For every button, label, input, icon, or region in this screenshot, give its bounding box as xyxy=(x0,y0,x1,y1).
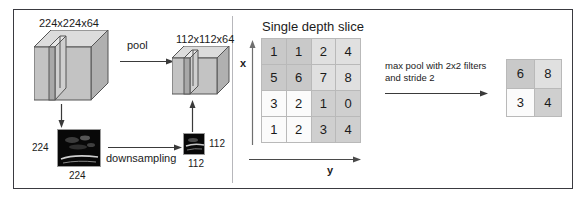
input-matrix-cell-2-1: 2 xyxy=(287,91,311,116)
input-matrix-cell-0-3: 4 xyxy=(336,39,360,64)
input-matrix-cell-0-1: 1 xyxy=(287,39,311,64)
input-image-bottom-label: 224 xyxy=(69,170,86,182)
output-matrix-cell-1-1: 4 xyxy=(535,89,562,117)
downsampling-arrow xyxy=(108,143,182,152)
input-volume-cube xyxy=(34,30,109,102)
output-image-side-label: 112 xyxy=(209,138,225,150)
input-matrix-cell-0-2: 2 xyxy=(312,39,336,64)
input-matrix-cell-2-2: 1 xyxy=(312,91,336,116)
axis-x-arrow xyxy=(248,40,257,145)
pool-arrow xyxy=(120,57,174,66)
single-depth-slice-title: Single depth slice xyxy=(262,20,364,35)
output-volume-label: 112x112x64 xyxy=(176,33,234,46)
input-matrix-cell-2-3: 0 xyxy=(336,91,360,116)
maxpool-operation-label-line1: max pool with 2x2 filters xyxy=(385,61,486,72)
upsample-up-arrow xyxy=(188,100,197,132)
output-matrix-cell-0-1: 8 xyxy=(535,60,562,88)
input-matrix: 1124567832101234 xyxy=(261,38,361,143)
input-matrix-cell-1-0: 5 xyxy=(262,65,286,90)
output-volume-cube xyxy=(172,46,230,96)
figure-root: 224x224x64 pool 112x112x64 xyxy=(0,0,587,201)
axis-y-arrow xyxy=(249,155,361,164)
input-matrix-cell-2-0: 3 xyxy=(262,91,286,116)
axis-y-label: y xyxy=(327,164,333,176)
input-image-side-label: 224 xyxy=(32,142,49,154)
output-feature-map-image xyxy=(183,133,205,155)
output-matrix-cell-0-0: 6 xyxy=(507,60,534,88)
input-matrix-cell-3-2: 3 xyxy=(312,117,336,142)
input-matrix-cell-1-1: 6 xyxy=(287,65,311,90)
axis-x-label: x xyxy=(240,57,246,69)
output-image-bottom-label: 112 xyxy=(188,158,204,170)
output-matrix-cell-1-0: 3 xyxy=(507,89,534,117)
input-matrix-cell-3-1: 2 xyxy=(287,117,311,142)
input-volume-label: 224x224x64 xyxy=(39,17,99,30)
input-matrix-cell-3-0: 1 xyxy=(262,117,286,142)
input-matrix-cell-1-3: 8 xyxy=(336,65,360,90)
input-matrix-cell-1-2: 7 xyxy=(312,65,336,90)
output-matrix: 6834 xyxy=(506,59,562,117)
maxpool-operation-label-line2: and stride 2 xyxy=(385,73,435,84)
downsample-down-arrow xyxy=(57,104,66,128)
pool-arrow-label: pool xyxy=(127,39,148,52)
input-matrix-cell-3-3: 4 xyxy=(336,117,360,142)
downsampling-arrow-label: downsampling xyxy=(106,152,176,165)
maxpool-arrow xyxy=(385,89,488,98)
input-feature-map-image xyxy=(57,129,101,167)
input-matrix-cell-0-0: 1 xyxy=(262,39,286,64)
